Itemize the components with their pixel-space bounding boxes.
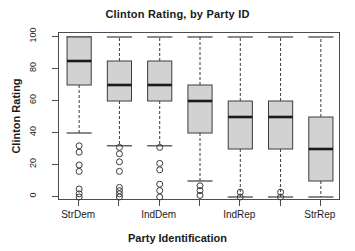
- outlier-point: [157, 194, 163, 200]
- x-axis-tick-label: StrDem: [48, 209, 108, 220]
- outlier-point: [76, 149, 82, 155]
- y-axis-tick-label: 60: [28, 84, 38, 114]
- x-axis-tick-label: IndRep: [209, 209, 269, 220]
- x-axis-title: Party Identification: [0, 232, 355, 244]
- outlier-point: [76, 168, 82, 174]
- chart-root: Clinton Rating, by Party ID Clinton Rati…: [0, 0, 355, 251]
- outlier-point: [116, 159, 122, 165]
- x-axis-tick-label: IndDem: [129, 209, 189, 220]
- outlier-point: [76, 143, 82, 149]
- outlier-point: [157, 181, 163, 187]
- plot-area: [58, 32, 340, 200]
- outlier-point: [116, 168, 122, 174]
- box-iqr: [228, 101, 252, 149]
- outlier-point: [116, 151, 122, 157]
- outlier-point: [157, 160, 163, 166]
- outlier-point: [157, 167, 163, 173]
- x-axis-tick-label: StrRep: [290, 209, 350, 220]
- y-axis-tick-label: 100: [28, 20, 38, 50]
- y-axis-title: Clinton Rating: [10, 56, 22, 176]
- box-iqr: [148, 61, 172, 101]
- boxplot-canvas: [59, 33, 341, 201]
- outlier-point: [157, 188, 163, 194]
- chart-title: Clinton Rating, by Party ID: [0, 8, 355, 20]
- y-axis-tick-label: 0: [28, 180, 38, 210]
- box-iqr: [268, 101, 292, 149]
- outlier-point: [76, 162, 82, 168]
- y-axis-tick-label: 20: [28, 148, 38, 178]
- y-axis-tick-label: 40: [28, 116, 38, 146]
- y-axis-tick-label: 80: [28, 52, 38, 82]
- box-iqr: [107, 61, 131, 101]
- box-iqr: [188, 85, 212, 133]
